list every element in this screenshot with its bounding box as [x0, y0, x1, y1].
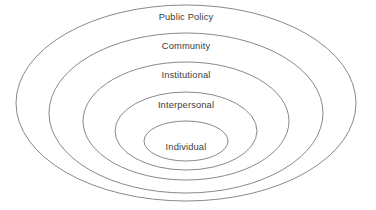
- ring-interpersonal: [115, 92, 257, 170]
- socio-ecological-model-diagram: Public Policy Community Institutional In…: [0, 0, 376, 210]
- nested-ellipse-rings: [0, 0, 376, 210]
- ring-public-policy: [16, 5, 356, 201]
- ring-individual: [144, 121, 228, 161]
- ring-community: [49, 33, 323, 193]
